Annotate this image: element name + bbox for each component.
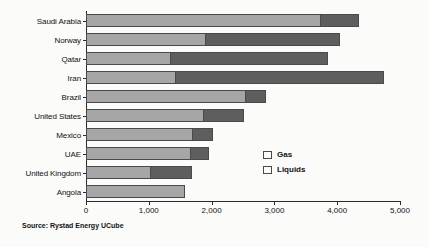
x-axis-tick-label: 2,000 [202, 206, 222, 215]
x-axis-tick [149, 201, 150, 205]
bar-segment-gas [205, 33, 340, 46]
legend-label-liquids: Liquids [277, 165, 305, 174]
bar-row: Norway [86, 33, 400, 46]
x-axis-tick-label: 5,000 [390, 206, 410, 215]
bar-segment-liquids [86, 185, 185, 198]
x-axis-tick-label: 4,000 [327, 206, 347, 215]
chart-container: Saudi ArabiaNorwayQatarIranBrazilUnited … [0, 0, 429, 247]
legend-item-gas: Gas [263, 150, 305, 159]
bar-segment-gas [203, 109, 243, 122]
category-label: Qatar [61, 54, 81, 63]
bar-row: Qatar [86, 52, 400, 65]
category-label: UAE [65, 149, 81, 158]
stacked-bar [86, 109, 244, 122]
bar-segment-gas [245, 90, 266, 103]
x-axis-tick [212, 201, 213, 205]
bar-segment-liquids [86, 52, 170, 65]
bar-row: Brazil [86, 90, 400, 103]
legend-swatch-gas [263, 151, 272, 159]
bar-segment-gas [192, 128, 213, 141]
category-label: Angola [57, 187, 81, 196]
x-axis-tick-label: 3,000 [264, 206, 284, 215]
x-axis-line [86, 201, 401, 202]
x-axis-tick-label: 0 [84, 206, 88, 215]
bar-row: Mexico [86, 128, 400, 141]
bar-segment-liquids [86, 109, 203, 122]
legend-item-liquids: Liquids [263, 165, 305, 174]
stacked-bar [86, 147, 209, 160]
stacked-bar [86, 166, 192, 179]
bar-segment-gas [190, 147, 209, 160]
legend-label-gas: Gas [277, 150, 292, 159]
bar-segment-gas [170, 52, 328, 65]
bar-segment-liquids [86, 33, 205, 46]
bar-segment-liquids [86, 71, 175, 84]
category-label: Norway [54, 35, 81, 44]
x-axis-tick [400, 201, 401, 205]
stacked-bar [86, 52, 328, 65]
stacked-bar [86, 71, 384, 84]
x-axis-tick [86, 201, 87, 205]
bar-segment-liquids [86, 90, 245, 103]
bar-row: Saudi Arabia [86, 14, 400, 27]
bar-segment-gas [320, 14, 359, 27]
bar-row: United States [86, 109, 400, 122]
bar-row: Iran [86, 71, 400, 84]
x-axis-tick [274, 201, 275, 205]
x-axis-tick-label: 1,000 [139, 206, 159, 215]
bar-segment-liquids [86, 166, 150, 179]
stacked-bar [86, 33, 340, 46]
stacked-bar [86, 185, 185, 198]
category-label: Iran [68, 73, 81, 82]
category-label: Brazil [62, 92, 81, 101]
category-label: United States [34, 111, 81, 120]
bar-segment-gas [150, 166, 192, 179]
stacked-bar [86, 128, 213, 141]
bar-segment-gas [175, 71, 384, 84]
stacked-bar [86, 90, 266, 103]
stacked-bar [86, 14, 359, 27]
bar-segment-liquids [86, 14, 320, 27]
source-caption: Source: Rystad Energy UCube [22, 222, 124, 230]
category-label: Saudi Arabia [37, 16, 81, 25]
category-label: Mexico [56, 130, 81, 139]
category-label: United Kingdom [25, 168, 81, 177]
chart-legend: Gas Liquids [263, 150, 305, 180]
x-axis-tick [337, 201, 338, 205]
plot-area: Saudi ArabiaNorwayQatarIranBrazilUnited … [86, 11, 400, 201]
bar-segment-liquids [86, 147, 190, 160]
bar-row: Angola [86, 185, 400, 198]
bar-segment-liquids [86, 128, 192, 141]
bar-row: United Kingdom [86, 166, 400, 179]
bar-row: UAE [86, 147, 400, 160]
legend-swatch-liquids [263, 166, 272, 174]
